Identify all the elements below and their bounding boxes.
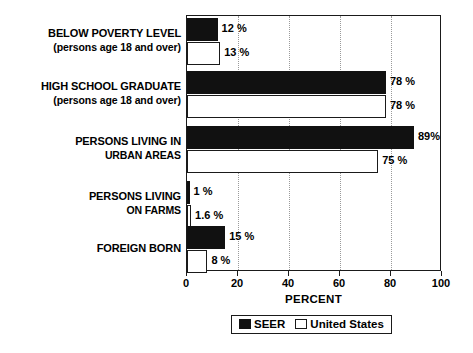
category-label-line1: FOREIGN BORN [97,242,181,254]
x-axis-ticks: 020406080100 [186,271,441,277]
legend-item: United States [295,318,384,330]
x-tick-mark [339,271,340,276]
bar-value-label: 1 % [194,186,213,197]
bar-value-label: 75 % [382,155,407,166]
bar-united-states [187,42,220,65]
bar-seer [187,18,218,41]
hollow-square-icon [295,319,307,329]
category-label-line1: HIGH SCHOOL GRADUATE [41,80,181,92]
bar-chart: BELOW POVERTY LEVEL(persons age 18 and o… [0,0,473,353]
x-tick-label: 60 [333,277,345,289]
bar-value-label: 8 % [211,255,230,266]
bar-value-label: 1.6 % [195,210,223,221]
category-label: BELOW POVERTY LEVEL(persons age 18 and o… [48,27,181,54]
x-tick-label: 0 [183,277,189,289]
category-label-line1: PERSONS LIVING [89,190,181,202]
filled-square-icon [239,319,251,329]
chart-legend: SEERUnited States [231,315,392,334]
bar-united-states [187,205,191,228]
category-label-line1: BELOW POVERTY LEVEL [48,27,181,39]
x-tick-label: 40 [282,277,294,289]
category-label: PERSONS LIVING INURBAN AREAS [75,135,181,162]
legend-item: SEER [239,318,285,330]
bar-united-states [187,150,378,173]
bar-seer [187,71,386,94]
x-tick-label: 80 [384,277,396,289]
category-label-line2: ON FARMS [89,204,181,218]
bar-value-label: 78 % [390,100,415,111]
category-label: PERSONS LIVINGON FARMS [89,190,181,217]
bar-value-label: 89% [418,131,440,142]
x-tick-mark [186,271,187,276]
x-tick-label: 20 [231,277,243,289]
x-tick-mark [288,271,289,276]
x-tick-mark [441,271,442,276]
x-tick-mark [390,271,391,276]
x-tick-label: 100 [432,277,450,289]
x-axis-title: PERCENT [186,293,441,305]
category-label: FOREIGN BORN [97,242,181,256]
category-label-line2: (persons age 18 and over) [41,94,181,108]
bar-value-label: 78 % [390,76,415,87]
bar-value-label: 12 % [222,23,247,34]
bar-seer [187,126,414,149]
category-label-line2: URBAN AREAS [75,149,181,163]
bar-seer [187,226,225,249]
category-label: HIGH SCHOOL GRADUATE(persons age 18 and … [41,80,181,107]
bar-value-label: 13 % [224,47,249,58]
legend-label: United States [310,318,384,330]
category-label-line1: PERSONS LIVING IN [75,135,181,147]
bar-united-states [187,95,386,118]
bar-united-states [187,250,207,273]
bar-value-label: 15 % [229,231,254,242]
category-label-line2: (persons age 18 and over) [48,41,181,55]
legend-label: SEER [254,318,285,330]
bar-seer [187,181,190,204]
x-tick-mark [237,271,238,276]
